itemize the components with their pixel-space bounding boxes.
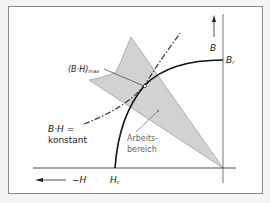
bh-constant-label-line1: B·H =: [48, 125, 74, 134]
remanence-label: Br: [226, 56, 234, 65]
h-axis-label: −H: [72, 176, 86, 185]
b-axis-label: B: [210, 44, 216, 53]
coercivity-label: Hc: [110, 176, 120, 185]
bh-diagram: [0, 0, 270, 203]
working-area-label-line1: Arbeits-: [127, 135, 158, 143]
bh-max-point: [143, 84, 146, 87]
bh-max-label: (B·H)max: [68, 66, 99, 74]
working-area-label-line2: bereich: [127, 146, 157, 154]
bh-constant-label-line2: konstant: [48, 136, 87, 145]
h-arrow-icon: [35, 178, 43, 182]
working-area-dot: [157, 110, 159, 112]
b-arrow-icon: [212, 15, 216, 22]
